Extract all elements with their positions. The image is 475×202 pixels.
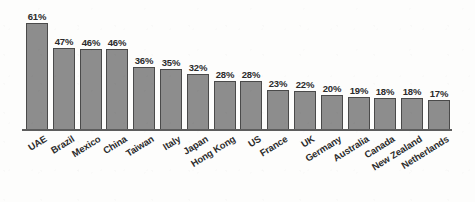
bar-value-label: 19%	[350, 85, 369, 96]
bar	[294, 91, 316, 130]
bar	[240, 81, 262, 130]
bar-group: 28%	[214, 8, 236, 130]
x-tick-label: France	[258, 133, 290, 159]
bar	[133, 67, 155, 130]
bar	[374, 98, 396, 130]
bar-group: 47%	[53, 8, 75, 130]
bar	[214, 81, 236, 130]
x-tick-label: China	[101, 133, 129, 156]
bar-group: 19%	[348, 8, 370, 130]
x-tick-label: UAE	[26, 133, 49, 153]
bar-group: 18%	[401, 8, 423, 130]
bar-value-label: 36%	[135, 55, 154, 66]
bar-group: 23%	[267, 8, 289, 130]
x-tick-label-text: Italy	[161, 133, 183, 152]
bar-group: 46%	[80, 8, 102, 130]
bar-group: 20%	[321, 8, 343, 130]
x-tick-label-text: China	[101, 133, 129, 156]
bar	[106, 49, 128, 130]
bar	[321, 95, 343, 130]
bar-value-label: 47%	[55, 36, 74, 47]
bar-value-label: 17%	[430, 88, 449, 99]
bar-value-label: 46%	[82, 37, 101, 48]
bar	[160, 69, 182, 130]
bar	[80, 49, 102, 130]
x-axis-line	[22, 129, 452, 131]
bar-group: 28%	[240, 8, 262, 130]
bar	[187, 74, 209, 130]
x-tick-label-text: France	[258, 133, 290, 159]
bar-value-label: 22%	[296, 79, 315, 90]
bar-value-label: 18%	[403, 86, 422, 97]
bar	[428, 100, 450, 130]
bar-group: 32%	[187, 8, 209, 130]
bar	[401, 98, 423, 130]
bar-group: 18%	[374, 8, 396, 130]
bar-value-label: 35%	[162, 57, 181, 68]
bar-value-label: 23%	[269, 78, 288, 89]
bar	[26, 23, 48, 130]
bar-value-label: 28%	[242, 69, 261, 80]
bar-group: 17%	[428, 8, 450, 130]
bar-group: 22%	[294, 8, 316, 130]
bar-value-label: 46%	[108, 37, 127, 48]
x-tick-label-text: Taiwan	[124, 133, 156, 159]
bar-value-label: 61%	[28, 11, 47, 22]
plot-area: 61%47%46%46%36%35%32%28%28%23%22%20%19%1…	[26, 8, 450, 130]
bar-value-label: 20%	[323, 83, 342, 94]
bar-group: 46%	[106, 8, 128, 130]
bar-group: 61%	[26, 8, 48, 130]
bar-value-label: 32%	[189, 62, 208, 73]
x-axis-category-labels: UAEBrazilMexicoChinaTaiwanItalyJapanHong…	[26, 133, 450, 202]
x-tick-label: Italy	[161, 133, 183, 152]
bar	[348, 97, 370, 130]
bar	[267, 90, 289, 130]
x-tick-label: Taiwan	[124, 133, 156, 159]
x-tick-label-text: Mexico	[70, 133, 103, 159]
bar-chart: 61%47%46%46%36%35%32%28%28%23%22%20%19%1…	[0, 0, 475, 202]
bar	[53, 48, 75, 130]
bar-group: 36%	[133, 8, 155, 130]
bar-value-label: 28%	[216, 69, 235, 80]
x-tick-label-text: UAE	[26, 133, 49, 153]
bar-group: 35%	[160, 8, 182, 130]
bar-value-label: 18%	[376, 86, 395, 97]
x-tick-label: Mexico	[70, 133, 103, 159]
